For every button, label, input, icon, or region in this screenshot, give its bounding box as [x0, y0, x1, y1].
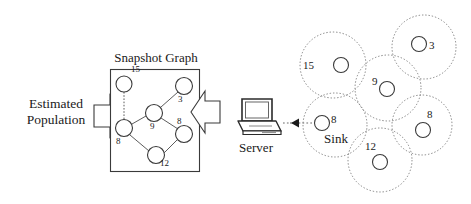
- graph-node-label-12: 12: [160, 158, 169, 168]
- graph-node-15: [116, 76, 132, 92]
- cluster-label-12: 12: [365, 140, 376, 152]
- cluster-range-sink: [303, 93, 367, 157]
- sensor-node-8: [416, 123, 431, 138]
- graph-node-8a: [116, 120, 133, 137]
- sink-label: Sink: [308, 131, 364, 147]
- graph-node-9: [146, 105, 163, 122]
- cluster-label-8: 8: [427, 108, 433, 120]
- sensor-node-12: [373, 155, 388, 170]
- graph-node-8b: [176, 126, 193, 143]
- cluster-label-9: 9: [372, 75, 378, 87]
- graph-node-3: [176, 78, 193, 95]
- data-link-arrow: [283, 119, 312, 128]
- estimated-population-label: Estimated Population: [8, 96, 104, 128]
- snapshot-graph-title: Snapshot Graph: [108, 50, 204, 66]
- server-label: Server: [228, 140, 284, 156]
- graph-node-label-8b: 8: [177, 116, 182, 126]
- graph-node-label-3: 3: [178, 94, 183, 104]
- estimated-population-line2: Population: [8, 112, 104, 128]
- cluster-label-15: 15: [303, 59, 314, 71]
- graph-node-label-15: 15: [131, 64, 140, 74]
- sensor-node-3: [412, 37, 427, 52]
- sensor-node-sink: [315, 116, 330, 131]
- cluster-label-3: 3: [429, 39, 435, 51]
- graph-node-label-9: 9: [150, 121, 155, 131]
- graph-node-label-8a: 8: [116, 136, 121, 146]
- figure-root: Estimated Population Snapshot Graph Serv…: [0, 0, 471, 204]
- sensor-node-15: [334, 58, 349, 73]
- estimated-population-line1: Estimated: [8, 96, 104, 112]
- cluster-label-sink: 8: [331, 113, 337, 125]
- laptop-icon: [238, 99, 281, 135]
- sensor-node-9: [380, 82, 395, 97]
